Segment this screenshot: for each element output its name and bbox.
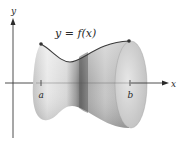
end-cap-disk [115, 41, 147, 128]
endpoint-a-dot [39, 42, 43, 46]
curve-label: y = f(x) [54, 27, 96, 40]
solid-of-revolution-diagram: y y = f(x) x a b [0, 0, 182, 144]
bound-b-label: b [128, 90, 134, 100]
shaded-band [79, 52, 88, 113]
endpoint-b-dot [127, 39, 131, 43]
x-axis-label: x [171, 79, 176, 89]
y-axis-label: y [10, 6, 17, 16]
y-axis-arrow-icon [11, 18, 16, 25]
x-axis-arrow-icon [162, 81, 169, 86]
bound-a-label: a [39, 90, 44, 100]
